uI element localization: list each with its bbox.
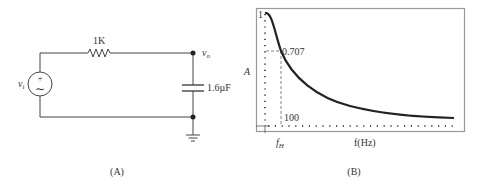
panel-label-a: (A) bbox=[110, 166, 124, 178]
cutoff-freq-label: fH bbox=[276, 137, 285, 150]
response-curve bbox=[265, 13, 454, 118]
circuit-diagram bbox=[28, 49, 204, 141]
output-label: vo bbox=[202, 47, 210, 60]
capacitor-label: 1.6µF bbox=[207, 82, 231, 93]
y-axis-label: A bbox=[243, 66, 251, 77]
figure: + ∼ 1K vi vo 1.6µF (A) 1 0.707 100 A fH … bbox=[0, 0, 483, 186]
node-ground bbox=[191, 115, 196, 120]
node-vo bbox=[191, 51, 196, 56]
cutoff-gain-label: 0.707 bbox=[282, 46, 305, 57]
resistor-icon bbox=[88, 49, 110, 57]
resistor-label: 1K bbox=[93, 35, 106, 46]
x-start-label: 100 bbox=[284, 112, 299, 123]
source-label: vi bbox=[18, 78, 24, 91]
source-sine-icon: ∼ bbox=[35, 82, 45, 96]
x-axis-label: f(Hz) bbox=[354, 137, 376, 149]
y-max-label: 1 bbox=[258, 9, 263, 20]
panel-label-b: (B) bbox=[347, 166, 360, 178]
